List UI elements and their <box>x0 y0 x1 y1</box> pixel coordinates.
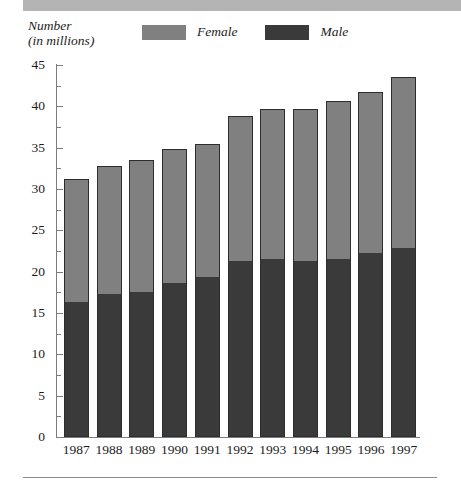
bar-group[interactable] <box>326 101 351 437</box>
bar-segment-female[interactable] <box>97 166 122 294</box>
x-tick-label: 1993 <box>256 442 289 458</box>
bar-group[interactable] <box>97 166 122 437</box>
bar-segment-female[interactable] <box>326 101 351 259</box>
x-tick-label: 1987 <box>60 442 93 458</box>
y-tick-label: 35 <box>11 140 45 156</box>
y-tick-label: 25 <box>11 222 45 238</box>
bar-segment-male[interactable] <box>260 259 285 437</box>
bar-group[interactable] <box>228 116 253 437</box>
y-tick-major <box>57 313 63 314</box>
x-tick-label: 1997 <box>387 442 420 458</box>
x-tick-label: 1992 <box>224 442 257 458</box>
x-axis-line <box>56 437 420 438</box>
y-tick-major <box>57 396 63 397</box>
bar-segment-male[interactable] <box>326 259 351 437</box>
y-tick-minor <box>57 86 61 87</box>
stacked-bar-chart: 051015202530354045 198719881989199019911… <box>0 0 461 487</box>
y-tick-major <box>57 437 63 438</box>
bottom-rule <box>23 477 437 478</box>
bar-segment-male[interactable] <box>293 261 318 437</box>
y-tick-minor <box>57 416 61 417</box>
y-axis-labels: 051015202530354045 <box>11 0 45 487</box>
y-tick-label: 0 <box>11 429 45 445</box>
y-tick-label: 20 <box>11 264 45 280</box>
bar-group[interactable] <box>129 160 154 437</box>
x-tick-label: 1990 <box>158 442 191 458</box>
y-tick-major <box>57 106 63 107</box>
y-tick-minor <box>57 251 61 252</box>
bar-segment-female[interactable] <box>228 116 253 261</box>
bar-segment-male[interactable] <box>97 294 122 437</box>
y-tick-label: 15 <box>11 305 45 321</box>
bar-segment-male[interactable] <box>195 277 220 437</box>
bar-segment-male[interactable] <box>129 292 154 437</box>
bar-group[interactable] <box>195 144 220 437</box>
bar-group[interactable] <box>260 109 285 437</box>
y-tick-major <box>57 354 63 355</box>
y-tick-major <box>57 230 63 231</box>
bar-group[interactable] <box>391 77 416 437</box>
bar-segment-male[interactable] <box>162 283 187 437</box>
y-tick-label: 10 <box>11 346 45 362</box>
bar-group[interactable] <box>64 179 89 437</box>
y-tick-minor <box>57 375 61 376</box>
x-tick-label: 1991 <box>191 442 224 458</box>
bar-segment-male[interactable] <box>228 261 253 437</box>
y-tick-minor <box>57 210 61 211</box>
bar-group[interactable] <box>358 92 383 437</box>
bar-segment-female[interactable] <box>195 144 220 278</box>
y-tick-label: 30 <box>11 181 45 197</box>
x-tick-label: 1989 <box>125 442 158 458</box>
bar-segment-female[interactable] <box>162 149 187 283</box>
bar-segment-female[interactable] <box>260 109 285 259</box>
y-tick-minor <box>57 292 61 293</box>
bar-segment-female[interactable] <box>391 77 416 247</box>
bar-segment-male[interactable] <box>64 302 89 437</box>
y-tick-major <box>57 272 63 273</box>
bar-segment-male[interactable] <box>391 248 416 437</box>
y-tick-major <box>57 65 63 66</box>
y-tick-major <box>57 189 63 190</box>
y-tick-label: 45 <box>11 57 45 73</box>
bar-group[interactable] <box>162 149 187 437</box>
bar-group[interactable] <box>293 109 318 437</box>
bar-segment-female[interactable] <box>293 109 318 261</box>
y-tick-minor <box>57 168 61 169</box>
x-tick-label: 1994 <box>289 442 322 458</box>
y-tick-label: 5 <box>11 388 45 404</box>
y-tick-minor <box>57 127 61 128</box>
bar-segment-female[interactable] <box>64 179 89 302</box>
y-tick-label: 40 <box>11 98 45 114</box>
x-tick-label: 1988 <box>93 442 126 458</box>
x-tick-label: 1996 <box>355 442 388 458</box>
bar-segment-female[interactable] <box>129 160 154 291</box>
x-tick-label: 1995 <box>322 442 355 458</box>
y-tick-minor <box>57 334 61 335</box>
bar-segment-female[interactable] <box>358 92 383 253</box>
bar-segment-male[interactable] <box>358 253 383 437</box>
y-tick-major <box>57 148 63 149</box>
